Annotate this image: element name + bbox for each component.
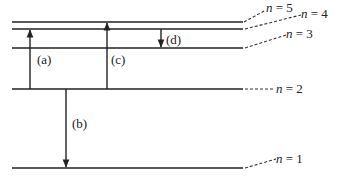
- label-n5: n = 5: [266, 0, 293, 15]
- transition-c-label: (c): [111, 52, 125, 67]
- leader-n5: [244, 10, 266, 22]
- transition-d-label: (d): [166, 32, 181, 47]
- label-n4: n = 4: [301, 6, 328, 21]
- transitions: [30, 23, 161, 167]
- label-n1: n = 1: [276, 151, 303, 166]
- leader-n1: [245, 159, 276, 168]
- transition-b-label: (b): [72, 116, 87, 131]
- label-n2: n = 2: [276, 81, 303, 96]
- leader-n3: [245, 35, 286, 48]
- energy-level-diagram: n = 5 n = 4 n = 3 n = 2 n = 1 (a) (b) (c…: [0, 0, 340, 181]
- label-n3: n = 3: [286, 26, 313, 41]
- level-lines: [12, 22, 243, 168]
- transition-a-label: (a): [37, 52, 51, 67]
